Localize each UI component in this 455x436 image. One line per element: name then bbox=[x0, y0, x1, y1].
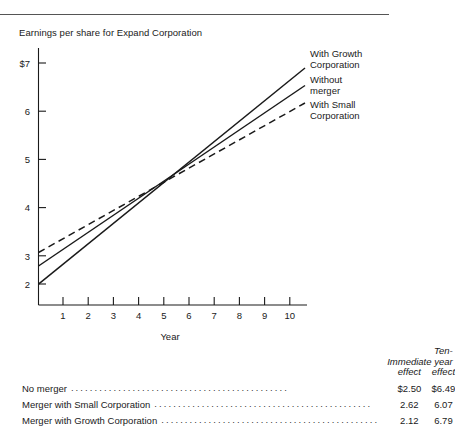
series-label-without-merger: Without merger bbox=[310, 75, 342, 96]
series-label-with-small-corporation-line1: With Small bbox=[310, 99, 355, 110]
x-tick-label-1: 1 bbox=[55, 310, 71, 321]
series-line-without-merger bbox=[39, 86, 306, 267]
table-header-immediate-effect-line2: effect bbox=[398, 366, 421, 377]
x-tick-label-2: 2 bbox=[80, 310, 96, 321]
table-row: Merger with Growth Corporation .........… bbox=[22, 413, 455, 429]
table-row-label: Merger with Small Corporation bbox=[22, 399, 154, 410]
y-tick-label-5: 5 bbox=[4, 154, 30, 165]
x-tick-label-3: 3 bbox=[105, 310, 121, 321]
table-header-label bbox=[22, 346, 387, 381]
dot-leader: ........................................… bbox=[71, 382, 379, 393]
table-cell-immediate-effect: $2.50 bbox=[387, 381, 431, 397]
series-label-without-merger-line1: Without bbox=[310, 74, 342, 85]
table-cell-label: Merger with Small Corporation ..........… bbox=[22, 397, 387, 413]
table-header-immediate-effect: Immediate effect bbox=[387, 346, 431, 381]
dot-leader: ........................................… bbox=[154, 398, 379, 409]
table-row: No merger ..............................… bbox=[22, 381, 455, 397]
series-label-with-growth-corporation-line1: With Growth bbox=[310, 48, 362, 59]
table-row-label: No merger bbox=[22, 383, 71, 394]
table-cell-tenyear-effect: 6.79 bbox=[432, 413, 455, 429]
table-cell-tenyear-effect: $6.49 bbox=[432, 381, 455, 397]
x-tick-label-4: 4 bbox=[131, 310, 147, 321]
series-label-with-small-corporation-line2: Corporation bbox=[310, 110, 360, 121]
x-tick-label-10: 10 bbox=[282, 310, 298, 321]
y-tick-label-4: 4 bbox=[4, 202, 30, 213]
table-cell-label: No merger ..............................… bbox=[22, 381, 387, 397]
table-row: Merger with Small Corporation ..........… bbox=[22, 397, 455, 413]
x-tick-label-7: 7 bbox=[206, 310, 222, 321]
y-tick-label-7: $7 bbox=[4, 58, 30, 69]
y-tick-label-3: 3 bbox=[4, 251, 30, 262]
table-header-tenyear-effect: Ten-year effect bbox=[432, 346, 455, 381]
x-tick-label-8: 8 bbox=[231, 310, 247, 321]
table-header-immediate-effect-line1: Immediate bbox=[387, 356, 431, 367]
table-header-tenyear-effect-line1: Ten-year bbox=[434, 345, 453, 367]
series-line-with-small-corporation bbox=[39, 103, 306, 253]
series-label-with-growth-corporation-line2: Corporation bbox=[310, 59, 360, 70]
y-tick-label-6: 6 bbox=[4, 106, 30, 117]
table-cell-label: Merger with Growth Corporation .........… bbox=[22, 413, 387, 429]
table-row-label: Merger with Growth Corporation bbox=[22, 415, 161, 426]
table-header-row: Immediate effect Ten-year effect bbox=[22, 346, 455, 381]
y-tick-label-2: 2 bbox=[4, 279, 30, 290]
table-header-tenyear-effect-line2: effect bbox=[432, 366, 455, 377]
table-cell-immediate-effect: 2.12 bbox=[387, 413, 431, 429]
x-axis-ticks bbox=[63, 297, 290, 305]
table-cell-immediate-effect: 2.62 bbox=[387, 397, 431, 413]
x-tick-label-6: 6 bbox=[181, 310, 197, 321]
x-axis-title: Year bbox=[0, 331, 340, 342]
x-tick-label-9: 9 bbox=[257, 310, 273, 321]
series-label-without-merger-line2: merger bbox=[310, 85, 340, 96]
x-tick-label-5: 5 bbox=[156, 310, 172, 321]
series-label-with-small-corporation: With Small Corporation bbox=[310, 100, 360, 121]
effects-table: Immediate effect Ten-year effect No merg… bbox=[22, 346, 455, 429]
table-cell-tenyear-effect: 6.07 bbox=[432, 397, 455, 413]
dot-leader: ........................................… bbox=[161, 414, 379, 425]
series-label-with-growth-corporation: With Growth Corporation bbox=[310, 49, 362, 70]
